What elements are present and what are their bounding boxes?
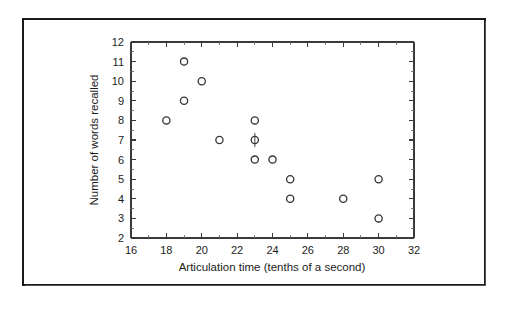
- data-point: [340, 195, 347, 202]
- y-tick-label: 11: [113, 56, 124, 68]
- y-tick-label: 3: [118, 212, 124, 224]
- axis-spines: [131, 42, 414, 238]
- scatter-plot-figure: 23456789101112 161820222426283032 Articu…: [0, 0, 510, 310]
- data-point: [163, 117, 170, 124]
- x-tick-label: 22: [231, 244, 243, 256]
- y-axis-title: Number of words recalled: [88, 74, 100, 205]
- y-tick-label: 9: [118, 95, 124, 107]
- x-tick-label: 24: [266, 244, 278, 256]
- x-tick-label: 32: [408, 244, 420, 256]
- data-point-series: [163, 58, 382, 222]
- y-axis-tick-labels: 23456789101112: [112, 36, 124, 244]
- data-point: [251, 117, 258, 124]
- data-point: [375, 215, 382, 222]
- y-tick-label: 4: [118, 193, 124, 205]
- x-tick-label: 20: [196, 244, 208, 256]
- plot-canvas: 23456789101112 161820222426283032 Articu…: [0, 0, 510, 310]
- data-point: [287, 176, 294, 183]
- data-point: [269, 156, 276, 163]
- x-axis-tick-labels: 161820222426283032: [125, 244, 420, 256]
- x-tick-label: 28: [337, 244, 349, 256]
- data-point: [198, 78, 205, 85]
- x-tick-label: 16: [125, 244, 137, 256]
- y-tick-label: 10: [112, 75, 124, 87]
- y-tick-label: 12: [112, 36, 124, 48]
- y-tick-label: 5: [118, 173, 124, 185]
- x-tick-label: 18: [160, 244, 172, 256]
- data-point: [180, 58, 187, 65]
- data-point: [251, 156, 258, 163]
- y-tick-label: 7: [118, 134, 124, 146]
- y-tick-label: 2: [118, 232, 124, 244]
- data-point: [375, 176, 382, 183]
- y-tick-label: 8: [118, 114, 124, 126]
- x-axis-title: Articulation time (tenths of a second): [179, 261, 366, 273]
- x-axis-ticks: [131, 42, 414, 238]
- y-axis-ticks: [131, 42, 414, 238]
- data-point: [287, 195, 294, 202]
- y-tick-label: 6: [118, 154, 124, 166]
- x-tick-label: 26: [302, 244, 314, 256]
- x-tick-label: 30: [373, 244, 385, 256]
- data-point: [180, 97, 187, 104]
- data-point: [216, 136, 223, 143]
